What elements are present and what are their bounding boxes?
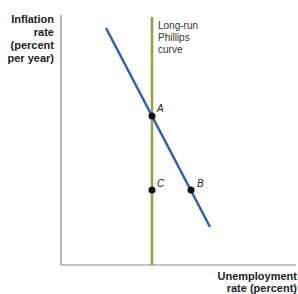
point-b xyxy=(188,187,195,194)
point-c xyxy=(149,187,156,194)
lr-label-line: curve xyxy=(158,44,198,56)
lr-label-line: Long-run xyxy=(158,20,198,32)
short-run-phillips-curve xyxy=(106,28,210,227)
point-a xyxy=(149,113,156,120)
point-a-label: A xyxy=(157,103,164,114)
x-label-line: rate (percent) xyxy=(177,282,297,294)
point-b-label: B xyxy=(197,178,204,189)
point-c-label: C xyxy=(157,178,164,189)
x-label-line: Unemployment xyxy=(177,270,297,282)
long-run-curve-label: Long-run Phillips curve xyxy=(158,20,198,56)
x-axis-label: Unemployment rate (percent) xyxy=(177,270,297,294)
lr-label-line: Phillips xyxy=(158,32,198,44)
